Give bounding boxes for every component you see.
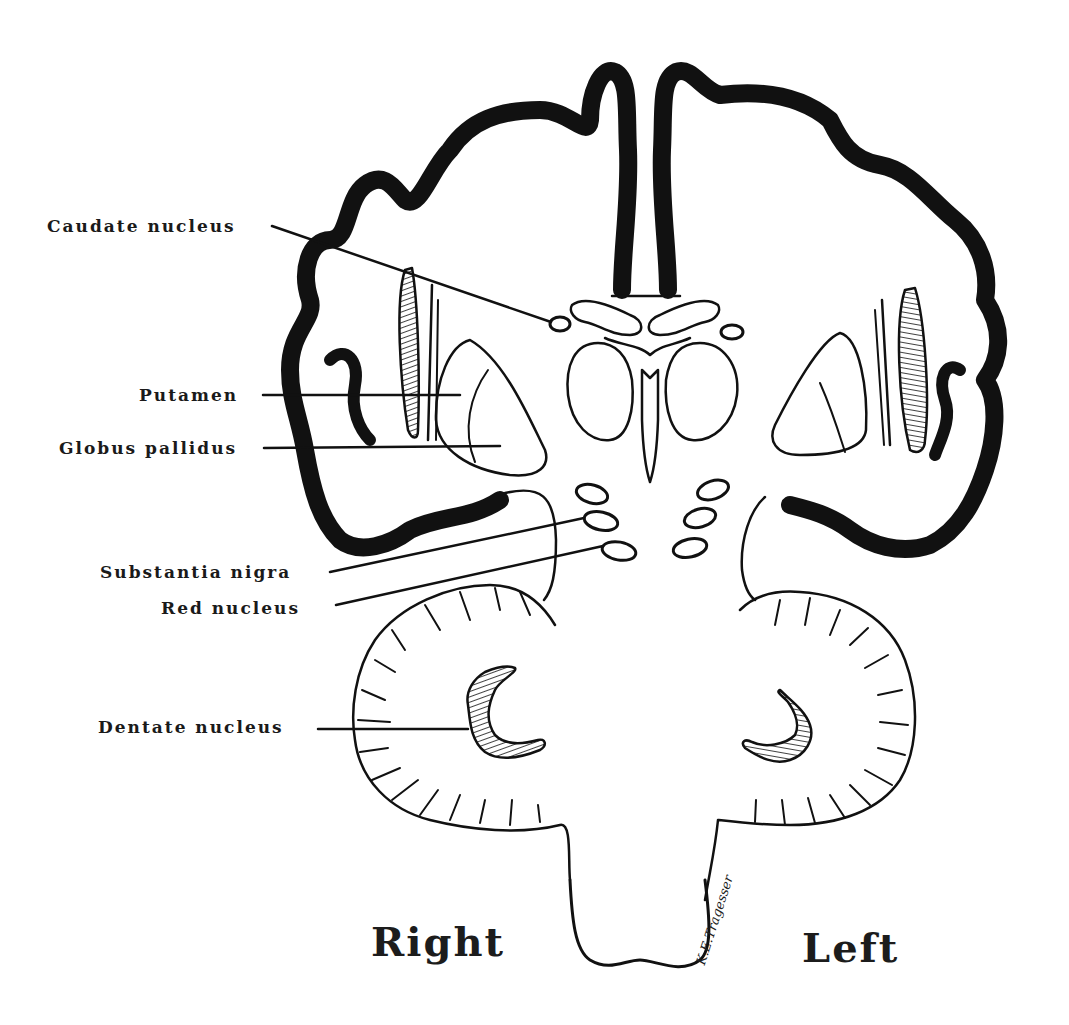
left-hemisphere-cortex	[662, 71, 999, 549]
left-insula	[875, 288, 960, 455]
brain-drawing	[0, 0, 1069, 1025]
left-dentate-nucleus	[743, 690, 811, 762]
label-putamen: Putamen	[139, 387, 238, 404]
left-lentiform-nucleus	[772, 333, 866, 455]
right-hemisphere-cortex	[290, 71, 628, 547]
label-substantia-nigra: Substantia nigra	[100, 564, 291, 581]
right-lentiform-nucleus	[436, 340, 546, 475]
right-dentate-nucleus	[467, 667, 544, 758]
label-globus-pallidus: Globus pallidus	[59, 440, 237, 457]
brain-diagram: Caudate nucleus Putamen Globus pallidus …	[0, 0, 1069, 1025]
side-label-left: Left	[802, 928, 899, 968]
left-cerebellar-hemisphere	[705, 592, 915, 900]
side-label-right: Right	[371, 922, 505, 962]
right-cerebellar-hemisphere	[353, 585, 570, 880]
label-red-nucleus: Red nucleus	[161, 600, 300, 617]
brainstem-outline	[570, 880, 709, 967]
right-insula	[330, 268, 438, 440]
label-caudate-nucleus: Caudate nucleus	[47, 218, 236, 235]
central-structures	[550, 301, 743, 482]
midbrain-nuclei	[574, 476, 731, 562]
label-dentate-nucleus: Dentate nucleus	[98, 719, 284, 736]
